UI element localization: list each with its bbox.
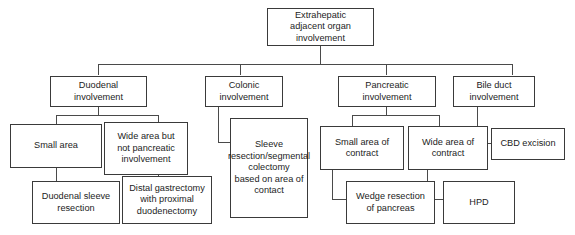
connector-colonic-drop [218,106,219,142]
connector-root-to-bile-duct [512,64,513,75]
flowchart-canvas: Extrahepatic adjacent organ involvement … [0,0,575,235]
connector-pancreatic-to-wide-contract [439,115,440,126]
node-small-area-of-contract[interactable]: Small area of contract [320,126,404,170]
node-root[interactable]: Extrahepatic adjacent organ involvement [267,8,374,46]
connector-duodenal-to-small-area [56,115,57,124]
node-duodenal-sleeve-resection[interactable]: Duodenal sleeve resection [32,181,120,224]
node-bile-duct-involvement[interactable]: Bile duct involvement [453,76,535,107]
connector-duodenal-to-wide-area [158,115,159,122]
node-hpd[interactable]: HPD [443,181,515,224]
connector-root-to-duodenal [98,64,99,75]
node-sleeve-resection-colectomy[interactable]: Sleeve resection/segmental colectomy bas… [230,118,308,218]
node-duodenal-involvement[interactable]: Duodenal involvement [50,76,147,107]
connector-small-contract-drop [332,170,333,199]
connector-duodenal-stem [98,106,99,115]
connector-pancreatic-bus [352,115,439,116]
node-distal-gastrectomy[interactable]: Distal gastrectomy with proximal duodene… [122,176,212,224]
node-wide-area-not-pancreatic[interactable]: Wide area but not pancreatic involvement [104,122,188,175]
node-wide-area-of-contract[interactable]: Wide area of contract [408,126,488,170]
connector-root-to-colonic [240,64,241,75]
node-small-area[interactable]: Small area [10,124,102,168]
connector-pancreatic-to-small-contract [352,115,353,126]
connector-small-contract-elbow [332,199,346,200]
connector-pancreatic-stem [386,106,387,115]
node-pancreatic-involvement[interactable]: Pancreatic involvement [338,76,436,107]
connector-root-to-pancreatic [386,64,387,75]
connector-duodenal-bus [56,115,158,116]
node-wedge-resection-of-pancreas[interactable]: Wedge resection of pancreas [346,181,435,224]
node-colonic-involvement[interactable]: Colonic involvement [205,76,283,107]
connector-root-bus [98,64,512,65]
connector-root-stem [320,45,321,64]
node-cbd-excision[interactable]: CBD excision [491,128,565,160]
